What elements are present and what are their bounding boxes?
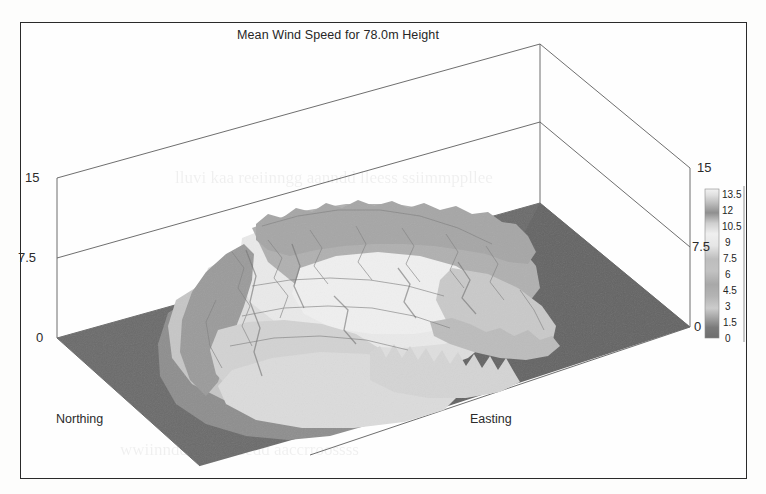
x-axis-label-easting: Easting xyxy=(470,412,512,426)
colorbar-label-7point5: 7.5 xyxy=(723,254,737,264)
surface-plot-svg xyxy=(0,0,766,494)
z-axis-right-tick-7point5: 7.5 xyxy=(692,239,710,254)
colorbar-label-10point5: 10.5 xyxy=(722,222,741,232)
y-axis-label-northing: Northing xyxy=(56,412,103,426)
colorbar-label-0: 0 xyxy=(725,334,731,344)
chart-title: Mean Wind Speed for 78.0m Height xyxy=(0,28,721,42)
z-axis-left-tick-0: 0 xyxy=(36,330,43,345)
z-axis-right-tick-15: 15 xyxy=(697,160,711,175)
figure-canvas: lluvi kaa reeiinngg aanndd lleess ssiimm… xyxy=(0,0,766,494)
colorbar-label-6: 6 xyxy=(725,270,731,280)
wind-speed-surface xyxy=(158,200,560,440)
colorbar-label-9: 9 xyxy=(725,238,731,248)
z-axis-right-tick-0: 0 xyxy=(694,319,701,334)
colorbar-label-4point5: 4.5 xyxy=(723,286,737,296)
colorbar-label-12: 12 xyxy=(722,206,733,216)
z-axis-left-tick-7point5: 7.5 xyxy=(18,250,36,265)
colorbar-label-13point5: 13.5 xyxy=(722,190,741,200)
colorbar-label-1point5: 1.5 xyxy=(723,318,737,328)
colorbar-label-3: 3 xyxy=(725,302,731,312)
z-axis-left-tick-15: 15 xyxy=(25,170,39,185)
